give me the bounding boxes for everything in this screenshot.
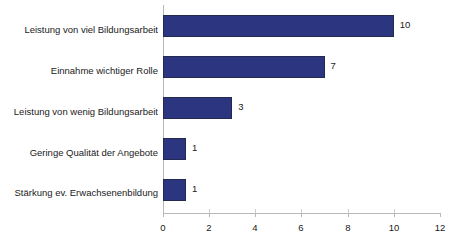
- bar-value-label: 10: [400, 19, 411, 30]
- x-tick-label: 0: [148, 222, 178, 233]
- x-tick-label: 12: [425, 222, 455, 233]
- plot-area: 0 2 4 6 8 10 12 10 7 3 1 1: [163, 5, 440, 213]
- x-axis-tick: [255, 213, 256, 217]
- x-axis-tick: [301, 213, 302, 217]
- category-label: Einnahme wichtiger Rolle: [0, 65, 158, 77]
- bar-value-label: 1: [192, 142, 197, 153]
- bar: [163, 138, 186, 160]
- category-label: Leistung von viel Bildungsarbeit: [0, 24, 158, 36]
- category-label: Leistung von wenig Bildungsarbeit: [0, 106, 158, 118]
- x-axis-tick-inner: [255, 209, 256, 213]
- bar: [163, 97, 232, 119]
- x-axis-tick: [394, 213, 395, 217]
- x-axis-tick-inner: [301, 209, 302, 213]
- bar-value-label: 3: [238, 101, 243, 112]
- x-axis-tick: [440, 213, 441, 217]
- x-axis-tick: [163, 213, 164, 217]
- bar-value-label: 1: [192, 183, 197, 194]
- category-label: Geringe Qualität der Angebote: [0, 147, 158, 159]
- x-tick-label: 4: [240, 222, 270, 233]
- bar: [163, 56, 325, 78]
- category-label: Stärkung ev. Erwachsenenbildung: [0, 187, 158, 199]
- bar: [163, 179, 186, 201]
- x-axis-tick: [209, 213, 210, 217]
- bar-value-label: 7: [331, 60, 336, 71]
- bar-chart: Leistung von viel Bildungsarbeit Einnahm…: [0, 0, 455, 242]
- x-axis-tick: [348, 213, 349, 217]
- bar: [163, 15, 394, 37]
- x-axis-tick-inner: [394, 209, 395, 213]
- x-axis-tick-inner: [348, 209, 349, 213]
- x-tick-label: 2: [194, 222, 224, 233]
- x-axis-tick-inner: [209, 209, 210, 213]
- x-tick-label: 8: [333, 222, 363, 233]
- x-tick-label: 6: [286, 222, 316, 233]
- x-tick-label: 10: [379, 222, 409, 233]
